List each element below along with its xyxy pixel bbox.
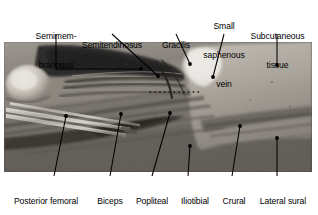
label-biceps-femoris-line1: Biceps xyxy=(89,197,131,207)
label-semitendinosus-line1: Semitendinosus xyxy=(68,41,156,51)
label-semitendinosus: Semitendinosus xyxy=(68,22,156,70)
label-small-saphenous-vein-line1: Small xyxy=(196,22,252,32)
label-biceps-femoris: Biceps femoris xyxy=(89,178,131,215)
label-lateral-sural-cutaneous-nerve-line1: Lateral sural xyxy=(251,197,315,207)
label-crural-fascia-line1: Crural xyxy=(215,197,253,207)
label-small-saphenous-vein: Small saphenous vein xyxy=(196,3,252,109)
label-subcutaneous-tissue-line1: Subcutaneous xyxy=(245,32,310,42)
label-iliotibial-tract: Iliotibial tract xyxy=(173,178,217,215)
label-popliteal-fat: Popliteal fat xyxy=(129,178,175,215)
label-posterior-femoral-cutaneous-nerve: Posterior femoral cutaneous nerve xyxy=(3,178,89,215)
anatomical-figure: Semimem- branosus Semitendinosus Gracili… xyxy=(0,0,318,215)
label-crural-fascia: Crural fascia xyxy=(215,178,253,215)
label-subcutaneous-tissue-line2: tissue xyxy=(245,61,310,71)
label-iliotibial-tract-line1: Iliotibial xyxy=(173,197,217,207)
label-small-saphenous-vein-line3: vein xyxy=(196,80,252,90)
label-subcutaneous-tissue: Subcutaneous tissue xyxy=(245,13,310,90)
label-posterior-femoral-cutaneous-nerve-line1: Posterior femoral xyxy=(3,197,89,207)
label-gracilis: Gracilis xyxy=(152,22,200,70)
label-popliteal-fat-line1: Popliteal xyxy=(129,197,175,207)
label-lateral-sural-cutaneous-nerve: Lateral sural cutaneous nerve xyxy=(251,178,315,215)
label-small-saphenous-vein-line2: saphenous xyxy=(196,51,252,61)
label-gracilis-line1: Gracilis xyxy=(152,41,200,51)
